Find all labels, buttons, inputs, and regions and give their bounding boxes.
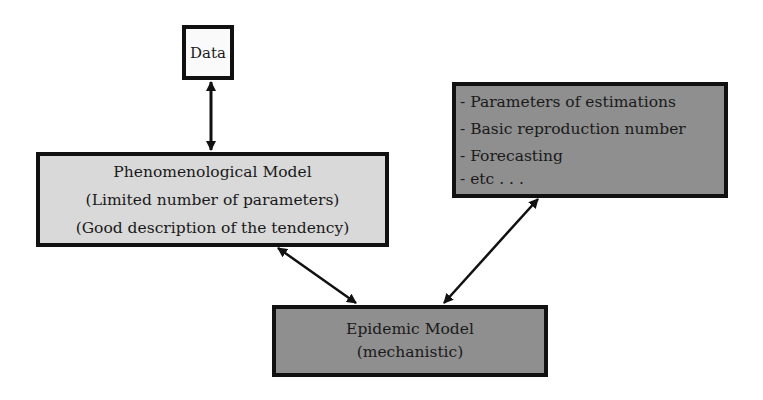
phenomenological-model-node: Phenomenological Model (Limited number o… — [36, 152, 389, 247]
epidemic-title: Epidemic Model — [346, 318, 474, 341]
output-item: - Basic reproduction number — [460, 116, 724, 143]
output-item: - Forecasting — [460, 143, 724, 170]
epidemic-model-node: Epidemic Model (mechanistic) — [272, 305, 548, 377]
epidemic-subtitle: (mechanistic) — [357, 341, 464, 364]
output-item: - Parameters of estimations — [460, 89, 724, 116]
outputs-node: - Parameters of estimations - Basic repr… — [452, 82, 728, 198]
pheno-title: Phenomenological Model — [113, 158, 311, 186]
pheno-line-1: (Limited number of parameters) — [86, 186, 340, 214]
output-item: - etc . . . — [460, 170, 724, 188]
arrow-pheno-epidemic — [278, 248, 356, 303]
data-node: Data — [182, 25, 234, 80]
data-label: Data — [190, 44, 226, 62]
pheno-line-2: (Good description of the tendency) — [76, 214, 350, 242]
arrow-epidemic-outputs — [444, 199, 538, 303]
